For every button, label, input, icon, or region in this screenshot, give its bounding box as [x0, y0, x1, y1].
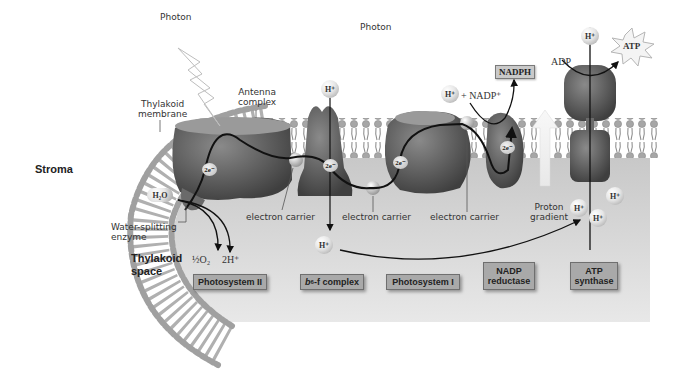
- h-ion-lumen-1: H⁺: [570, 199, 588, 217]
- electron-carrier-label-3: electron carrier: [430, 212, 499, 222]
- water-splitting-enzyme-label: Water-splitting enzyme: [111, 222, 177, 242]
- h-ion-b6f-stroma: H⁺: [321, 80, 339, 98]
- adp-label: ADP: [551, 57, 571, 67]
- atp-label: ATP: [623, 41, 640, 51]
- photon-label-2: Photon: [360, 22, 391, 32]
- antenna-complex-label: Antenna complex: [238, 87, 276, 107]
- electron-pair-psii: 2e⁻: [202, 163, 217, 176]
- h-ion-nadp: H⁺: [441, 85, 459, 103]
- nadp-reductase-label: NADP reductase: [483, 262, 535, 290]
- photosystem-i-label: Photosystem I: [386, 274, 460, 290]
- h-ion-lumen-2: H⁺: [606, 187, 624, 205]
- photosynthesis-diagram: Photon Photon Thylakoid membrane Antenna…: [0, 0, 698, 375]
- electron-carrier-label-1: electron carrier: [246, 212, 315, 222]
- thylakoid-space-label: Thylakoid space: [131, 252, 182, 278]
- electron-pair-nadp: 2e⁻: [500, 141, 515, 154]
- two-h-product: 2H⁺: [222, 255, 239, 265]
- atp-synthase-label: ATP synthase: [570, 262, 618, 290]
- photon-label-1: Photon: [160, 12, 191, 22]
- proton-gradient-label: Proton gradient: [530, 202, 568, 222]
- thylakoid-membrane-label: Thylakoid membrane: [138, 99, 187, 119]
- stroma-label: Stroma: [35, 164, 73, 174]
- h-ion-b6f-lumen: H⁺: [315, 236, 333, 254]
- electron-carrier-1: [289, 153, 303, 167]
- electron-pair-psi: 2e⁻: [393, 156, 408, 169]
- nadph-box: NADPH: [495, 65, 535, 79]
- b6f-complex-label: b6-f complex: [300, 274, 364, 290]
- electron-pair-b6f: 2e⁻: [323, 159, 338, 172]
- water-molecule: H₂O: [147, 188, 173, 202]
- electron-carrier-label-2: electron carrier: [342, 212, 411, 222]
- oxygen-product: ½O₂: [192, 255, 210, 265]
- diagram-graphics: [0, 0, 698, 375]
- nadp-plus-label: + NADP⁺: [461, 91, 501, 101]
- h-ion-lumen-3: H⁺: [589, 209, 607, 227]
- photosystem-ii-label: Photosystem II: [193, 274, 267, 290]
- h-ion-atp-out: H⁺: [581, 27, 599, 45]
